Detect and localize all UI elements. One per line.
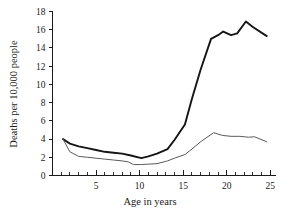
y-axis-ticks (49, 12, 53, 176)
x-tick-label: 25 (266, 181, 276, 191)
y-tick-label: 4 (41, 134, 46, 144)
y-tick-label: 16 (36, 25, 46, 35)
y-axis-title: Deaths per 10,000 people (8, 40, 19, 148)
series-line-upper (63, 22, 267, 159)
x-tick-label: 20 (222, 181, 232, 191)
x-axis-tick-labels: 510152025 (94, 181, 276, 191)
y-tick-label: 12 (36, 62, 46, 72)
chart-figure: 024681012141618 510152025 Age in years D… (0, 0, 286, 216)
y-tick-label: 0 (41, 171, 46, 181)
y-tick-label: 8 (41, 98, 46, 108)
y-tick-label: 6 (41, 116, 46, 126)
y-tick-label: 14 (36, 43, 46, 53)
y-tick-label: 10 (36, 80, 46, 90)
x-tick-label: 5 (94, 181, 99, 191)
x-tick-label: 10 (135, 181, 145, 191)
x-axis-title: Age in years (123, 196, 176, 207)
x-tick-label: 15 (178, 181, 188, 191)
line-chart: 024681012141618 510152025 Age in years D… (0, 0, 286, 216)
y-axis-tick-labels: 024681012141618 (36, 7, 46, 181)
y-tick-label: 2 (41, 153, 46, 163)
y-tick-label: 18 (36, 7, 46, 17)
